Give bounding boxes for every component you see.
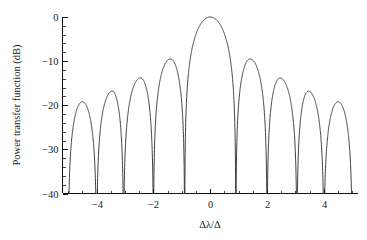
x-tick-label: −2 (148, 199, 159, 210)
x-axis-major-ticks (98, 189, 325, 194)
y-tick-label: −30 (42, 144, 58, 155)
x-axis-label: Δλ/Δ (199, 219, 221, 230)
x-tick-label: 4 (322, 199, 328, 210)
y-axis-major-ticks (63, 18, 68, 195)
y-tick-label: −40 (42, 189, 58, 200)
x-tick-label: 2 (265, 199, 270, 210)
x-tick-label: −4 (92, 199, 104, 210)
transfer-function-curve (69, 17, 351, 194)
x-axis-tick-labels: −4−2024 (92, 199, 328, 210)
x-tick-label: 0 (208, 199, 213, 210)
y-tick-label: 0 (53, 12, 58, 23)
y-axis-label: Power transfer function (dB) (11, 44, 23, 166)
y-tick-label: −10 (42, 56, 58, 67)
axes-group (63, 17, 359, 194)
power-transfer-function-chart: 0−10−20−30−40 −4−2024 Δλ/Δ Power transfe… (0, 0, 367, 240)
y-axis-tick-labels: 0−10−20−30−40 (42, 12, 58, 200)
chart-figure: 0−10−20−30−40 −4−2024 Δλ/Δ Power transfe… (0, 0, 367, 240)
y-tick-label: −20 (42, 100, 58, 111)
